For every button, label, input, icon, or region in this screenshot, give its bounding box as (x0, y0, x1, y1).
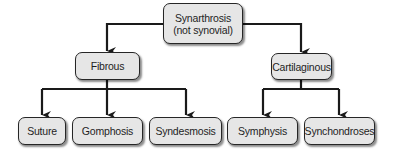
node-fibrous-label: Fibrous (91, 60, 125, 72)
node-fibrous: Fibrous (75, 52, 140, 80)
node-cartilaginous: Cartilaginous (271, 53, 332, 80)
node-syndesmosis: Syndesmosis (149, 117, 222, 145)
node-cartilaginous-label: Cartilaginous (272, 61, 331, 73)
node-suture: Suture (18, 117, 66, 145)
root-node-synarthrosis: Synarthrosis (not synovial) (163, 3, 243, 44)
node-symphysis: Symphysis (227, 117, 298, 145)
root-node-title: Synarthrosis (175, 12, 231, 24)
synarthrosis-classification-diagram: Synarthrosis (not synovial) Fibrous Cart… (0, 0, 394, 161)
node-synchondroses: Synchondroses (304, 117, 375, 145)
root-to-fibrous-arrow (107, 24, 163, 51)
root-node-subtitle: (not synovial) (173, 24, 233, 36)
node-suture-label: Suture (27, 125, 57, 137)
node-symphysis-label: Symphysis (238, 125, 287, 137)
node-synchondroses-label: Synchondroses (305, 125, 375, 137)
node-syndesmosis-label: Syndesmosis (155, 125, 215, 137)
node-gomphosis-label: Gomphosis (82, 125, 133, 137)
node-gomphosis: Gomphosis (72, 117, 143, 145)
root-to-cartilaginous-arrow (242, 24, 301, 52)
